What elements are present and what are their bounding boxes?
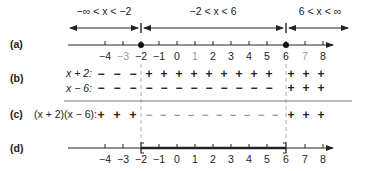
svg-text:6: 6 [283,153,289,165]
svg-text:−2: −2 [135,153,147,165]
svg-text:−: − [265,81,272,95]
svg-text:−: − [145,81,152,95]
svg-text:8: 8 [320,153,326,165]
svg-text:4: 4 [246,153,252,165]
row-label-c: (c) [10,108,23,120]
interval-arrows [70,23,348,33]
svg-text:−4: −4 [99,50,111,62]
svg-text:2: 2 [210,50,216,62]
svg-text:7: 7 [302,153,308,165]
svg-text:−: − [159,108,166,122]
factor1-signs: −−− +++ +++ +++ +++ [97,67,324,81]
critical-point-neg2 [138,42,144,48]
svg-text:−1: −1 [153,153,165,165]
svg-text:+: + [302,67,309,81]
svg-text:−: − [215,108,222,122]
number-line-a [68,41,333,45]
svg-text:+: + [97,108,104,122]
factor1-label: x + 2: [65,67,92,79]
svg-text:−: − [235,81,242,95]
svg-text:0: 0 [174,50,180,62]
svg-text:−: − [257,108,264,122]
svg-text:1: 1 [192,153,198,165]
svg-text:2: 2 [210,153,216,165]
svg-text:−: − [113,81,120,95]
svg-text:+: + [302,81,309,95]
svg-text:−: − [113,67,120,81]
interval-labels: −∞ < x < −2 −2 < x < 6 6 < x < ∞ [77,5,342,17]
row-label-b: (b) [10,72,23,84]
svg-text:−: − [220,81,227,95]
critical-point-6 [283,42,289,48]
svg-text:−: − [97,67,104,81]
svg-text:+: + [250,67,257,81]
interval-label-right: 6 < x < ∞ [299,5,342,17]
svg-text:+: + [129,108,136,122]
svg-text:−: − [173,108,180,122]
svg-text:−: − [190,81,197,95]
svg-text:+: + [302,108,309,122]
svg-text:0: 0 [174,153,180,165]
svg-text:−: − [205,81,212,95]
interval-label-left: −∞ < x < −2 [77,5,132,17]
svg-text:5: 5 [264,50,270,62]
svg-text:5: 5 [264,153,270,165]
svg-text:+: + [317,67,324,81]
product-expression: (x + 2)(x − 6): [34,108,97,120]
svg-text:3: 3 [228,153,234,165]
product-signs: +++ −−− −−− −−− − +++ [97,108,324,122]
svg-text:−: − [145,108,152,122]
svg-text:+: + [205,67,212,81]
svg-text:−3: −3 [117,153,129,165]
svg-text:+: + [145,67,152,81]
row-label-d: (d) [10,142,23,154]
svg-text:−: − [97,81,104,95]
svg-text:1: 1 [192,50,198,62]
svg-text:6: 6 [283,50,289,62]
row-label-a: (a) [10,38,23,50]
factor2-label: x − 6: [65,82,92,94]
svg-text:−: − [187,108,194,122]
svg-text:+: + [113,108,120,122]
svg-text:+: + [220,67,227,81]
svg-text:−: − [129,81,136,95]
svg-text:3: 3 [228,50,234,62]
svg-text:−: − [129,67,136,81]
factor2-signs: −−− −−− −−− −−− +++ [97,81,324,95]
svg-text:+: + [175,67,182,81]
svg-text:+: + [160,67,167,81]
svg-text:8: 8 [320,50,326,62]
svg-text:−2: −2 [135,50,147,62]
svg-text:−: − [243,108,250,122]
tick-labels-d: −4 −3 −2 −1 0 1 2 3 4 5 6 7 8 [99,153,326,165]
svg-text:+: + [287,81,294,95]
svg-text:−: − [160,81,167,95]
svg-text:7: 7 [302,50,308,62]
number-line-d [68,143,333,153]
svg-text:−: − [201,108,208,122]
svg-text:+: + [317,108,324,122]
svg-text:+: + [287,108,294,122]
svg-text:−: − [250,81,257,95]
svg-text:−3: −3 [117,50,129,62]
svg-text:−4: −4 [99,153,111,165]
interval-label-middle: −2 < x < 6 [190,5,237,17]
sign-chart-diagram: −∞ < x < −2 −2 < x < 6 6 < x < ∞ (a) −4 … [0,0,370,171]
svg-text:+: + [287,67,294,81]
svg-text:−: − [271,108,278,122]
svg-text:−: − [229,108,236,122]
svg-text:−: − [175,81,182,95]
svg-text:+: + [235,67,242,81]
svg-text:+: + [190,67,197,81]
svg-text:−1: −1 [153,50,165,62]
svg-text:4: 4 [246,50,252,62]
svg-text:+: + [265,67,272,81]
svg-text:+: + [317,81,324,95]
tick-labels-a: −4 −3 −2 −1 0 1 2 3 4 5 6 7 8 [99,50,326,62]
